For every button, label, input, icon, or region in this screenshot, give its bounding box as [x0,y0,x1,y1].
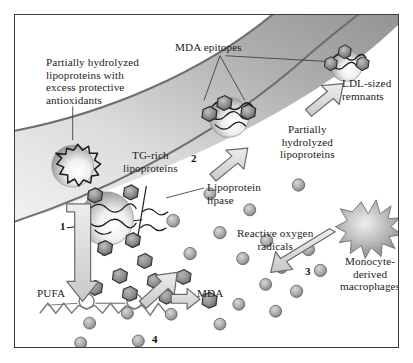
lipoprotein-lipase-marks [67,186,168,256]
step-number-1: 1 [60,220,66,232]
tg-rich-lipoprotein-particle [52,144,101,187]
label-mda: MDA [197,287,223,300]
label-ldl-sized-remnants: LDL-sized remnants [342,77,391,102]
label-lipoprotein-lipase: Lipoprotein lipase [207,181,261,206]
arrow-ldl-remnants [305,84,343,117]
label-monocyte-derived-macrophages: Monocyte- derived macrophages [340,255,399,293]
label-partially-hydrolyzed-lipoproteins: Partially hydrolyzed lipoproteins [280,123,335,161]
label-pufa: PUFA [37,287,65,300]
label-partially-hydrolyzed-antioxidants: Partially hydrolyzed lipoproteins with e… [46,56,139,106]
arrow-step-4 [171,288,200,309]
label-reactive-oxygen-radicals: Reactive oxygen radicals [237,227,313,252]
arrow-step-1 [67,204,99,301]
reactive-oxygen-radical-cluster [75,179,327,347]
label-mda-epitopes: MDA epitopes [175,41,242,54]
mda-particle-cluster [88,254,191,305]
step-number-3: 3 [305,265,311,277]
figure-frame: Partially hydrolyzed lipoproteins with e… [14,14,399,348]
partially-hydrolyzed-lipoprotein-particle [202,96,256,138]
label-tg-rich-lipoproteins: TG-rich lipoproteins [123,149,178,174]
monocyte-derived-macrophage-starburst [335,200,398,259]
arrow-step-2 [210,148,248,181]
step-number-4: 4 [152,333,158,345]
figure-root: Partially hydrolyzed lipoproteins with e… [0,0,413,363]
process-arrows [67,84,344,310]
step-number-2: 2 [191,152,197,164]
lipase-bound-lipoprotein-particle [76,185,141,256]
arrow-pufa-oxidation [139,272,177,308]
